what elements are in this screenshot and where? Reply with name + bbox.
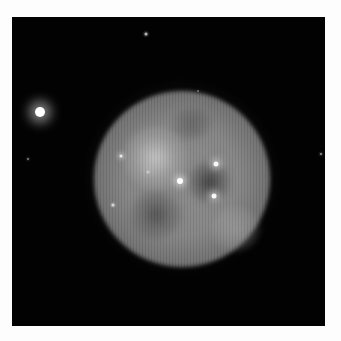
nebula-dark-eye-left (130, 191, 182, 239)
star-far-left-icon (27, 158, 29, 160)
star-far-right-icon (320, 153, 322, 155)
nebula-dark-eye-right (188, 161, 230, 203)
star-nebula-faint-icon (147, 171, 150, 174)
nebula-bright-lobe-lower-right (212, 207, 260, 251)
star-lower-right-icon (212, 194, 217, 199)
star-central-icon (177, 178, 183, 184)
sky-panel (12, 17, 325, 326)
star-upper-right-icon (214, 162, 219, 167)
star-lower-left-icon (112, 204, 115, 207)
star-nebula-top-icon (197, 90, 199, 92)
star-nebula-left-icon (120, 155, 123, 158)
bright-star-left-icon (35, 107, 45, 117)
star-top-icon (145, 33, 148, 36)
nebula-dark-patch-top (172, 109, 212, 139)
image-frame (0, 0, 341, 341)
